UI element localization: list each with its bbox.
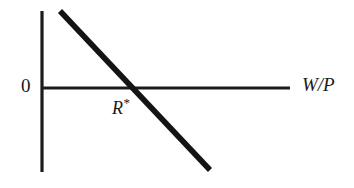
origin-label: 0 bbox=[21, 75, 31, 97]
demand-curve-line bbox=[60, 11, 210, 170]
plot-area bbox=[0, 0, 354, 188]
equilibrium-label: R* bbox=[112, 98, 130, 119]
x-axis-label: W/P bbox=[302, 74, 335, 96]
equilibrium-label-letter: R bbox=[112, 98, 123, 118]
figure-container: ....... ............ ........ ..... ....… bbox=[0, 0, 354, 188]
equilibrium-label-asterisk: * bbox=[124, 95, 131, 110]
